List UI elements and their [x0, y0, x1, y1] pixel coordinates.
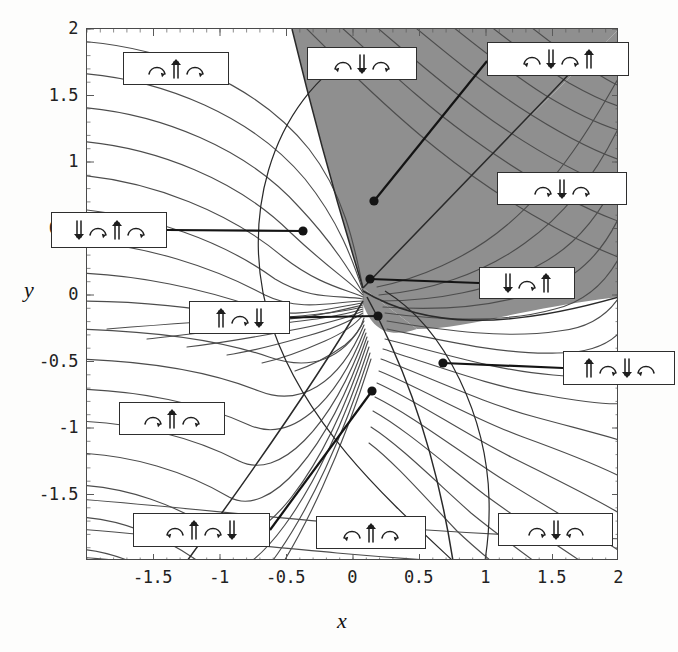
double-up-arrow-icon	[165, 407, 179, 431]
region-label-a11	[316, 516, 426, 549]
arc-arrow-right-icon	[570, 177, 592, 201]
arc-arrow-right-icon	[379, 521, 401, 545]
arc-arrow-left-icon	[521, 47, 543, 71]
double-up-arrow-icon	[582, 356, 596, 380]
arc-arrow-right-icon	[202, 518, 224, 542]
double-down-arrow-icon	[544, 47, 558, 71]
x-axis-label: x	[337, 608, 347, 634]
y-axis-label: y	[24, 277, 34, 303]
arc-arrow-left-icon	[332, 52, 354, 76]
double-down-arrow-icon	[225, 518, 239, 542]
x-tick-0p5: 0.5	[389, 567, 449, 587]
double-up-arrow-icon	[187, 518, 201, 542]
region-label-a9	[119, 402, 225, 435]
region-label-a12	[498, 513, 613, 546]
arc-arrow-right-icon	[125, 218, 147, 242]
arc-arrow-right-icon	[516, 271, 538, 295]
arc-arrow-left-icon	[564, 518, 586, 542]
arc-arrow-right-icon	[526, 518, 548, 542]
region-label-a7	[189, 301, 290, 334]
figure-canvas: 21.510.50-0.5-1-1.5 -1.5-1-0.500.511.52 …	[0, 0, 678, 652]
x-tick-neg1p5: -1.5	[123, 567, 183, 587]
double-down-arrow-icon	[549, 518, 563, 542]
region-label-a4	[497, 172, 627, 205]
scan-bleed-through	[60, 4, 64, 19]
arc-arrow-right-icon	[229, 306, 251, 330]
arc-arrow-right-icon	[180, 407, 202, 431]
region-label-a1	[123, 52, 229, 85]
region-label-a8	[563, 351, 675, 385]
arc-arrow-right-icon	[146, 57, 168, 81]
arc-arrow-right-icon	[532, 177, 554, 201]
region-label-a5	[51, 212, 167, 248]
double-up-arrow-icon	[539, 271, 553, 295]
double-up-arrow-icon	[364, 521, 378, 545]
y-tick-1: 1	[8, 151, 78, 171]
region-label-a6	[479, 267, 575, 299]
x-tick-0: 0	[322, 567, 382, 587]
x-tick-1p5: 1.5	[522, 567, 582, 587]
y-tick-neg0p5: -0.5	[8, 351, 78, 371]
x-tick-2: 2	[588, 567, 648, 587]
arc-arrow-right-icon	[87, 218, 109, 242]
double-down-arrow-icon	[501, 271, 515, 295]
double-down-arrow-icon	[620, 356, 634, 380]
arc-arrow-right-icon	[184, 57, 206, 81]
double-up-arrow-icon	[110, 218, 124, 242]
arc-arrow-right-icon	[559, 47, 581, 71]
arc-arrow-left-icon	[164, 518, 186, 542]
double-down-arrow-icon	[72, 218, 86, 242]
double-up-arrow-icon	[214, 306, 228, 330]
x-tick-1: 1	[455, 567, 515, 587]
region-label-a2	[307, 47, 417, 80]
double-up-arrow-icon	[169, 57, 183, 81]
x-tick-neg1: -1	[189, 567, 249, 587]
arc-arrow-right-icon	[370, 52, 392, 76]
double-down-arrow-icon	[355, 52, 369, 76]
arc-arrow-left-icon	[341, 521, 363, 545]
arc-arrow-left-icon	[635, 356, 657, 380]
arc-arrow-right-icon	[142, 407, 164, 431]
region-label-a10	[133, 513, 270, 547]
double-down-arrow-icon	[252, 306, 266, 330]
y-tick-0: 0	[8, 284, 78, 304]
arc-arrow-right-icon	[597, 356, 619, 380]
y-tick-1p5: 1.5	[8, 85, 78, 105]
x-tick-neg0p5: -0.5	[256, 567, 316, 587]
y-tick-neg1: -1	[8, 417, 78, 437]
double-down-arrow-icon	[555, 177, 569, 201]
double-up-arrow-icon	[582, 47, 596, 71]
region-label-a3	[487, 42, 629, 76]
y-tick-neg1p5: -1.5	[8, 484, 78, 504]
y-tick-2: 2	[8, 18, 78, 38]
